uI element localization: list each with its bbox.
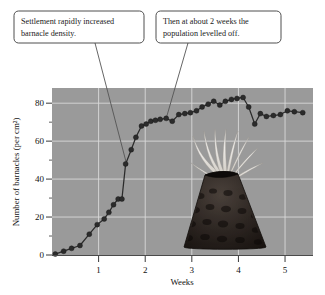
callout-settlement-line2: barnacle density. (21, 29, 76, 38)
callout-levelled-off: Then at about 2 weeks the population lev… (156, 11, 281, 43)
y-tick-label: 20 (35, 212, 45, 222)
x-tick-label: 3 (190, 265, 195, 275)
callout-levelled-line2: population levelled off. (163, 29, 239, 38)
y-tick-label: 0 (40, 250, 45, 260)
x-axis-title: Weeks (170, 277, 194, 287)
barnacle-population-chart: 020406080 12345 Number of barnacles (per… (0, 0, 325, 295)
x-tick-label: 5 (283, 265, 288, 275)
y-axis-title: Number of barnacles (per cm²) (11, 118, 21, 227)
x-tick-label: 1 (96, 265, 101, 275)
callout-settlement-line1: Settlement rapidly increased (21, 17, 114, 26)
callout-levelled-box (156, 11, 281, 43)
x-tick-label: 2 (143, 265, 148, 275)
callout-settlement-box (14, 11, 144, 43)
callout-settlement: Settlement rapidly increased barnacle de… (14, 11, 144, 43)
y-tick-label: 60 (35, 136, 45, 146)
y-tick-label: 40 (35, 174, 45, 184)
x-tick-label: 4 (236, 265, 241, 275)
y-tick-label: 80 (35, 98, 45, 108)
callout-levelled-line1: Then at about 2 weeks the (163, 17, 249, 26)
